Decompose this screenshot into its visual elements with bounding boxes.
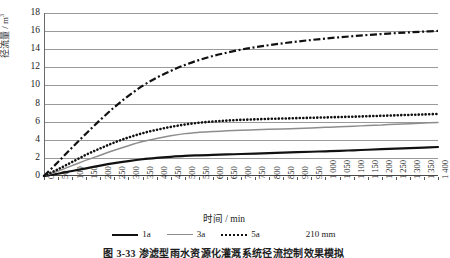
x-tick-mark bbox=[396, 177, 397, 180]
y-axis-title: 径流量 / m3 bbox=[0, 0, 11, 86]
x-axis-title: 时间 / min bbox=[0, 211, 448, 225]
x-tick-mark bbox=[199, 177, 200, 180]
x-tick-label: 1 200 bbox=[385, 160, 394, 179]
y-tick-label: 10 bbox=[22, 80, 40, 90]
x-tick-label: 500 bbox=[188, 166, 197, 179]
x-tick-mark bbox=[157, 177, 158, 180]
x-tick-label: 1 400 bbox=[441, 160, 450, 179]
legend-item-210-mm[interactable]: 210 mm bbox=[276, 229, 336, 239]
y-tick-label: 16 bbox=[22, 26, 40, 36]
x-tick-mark bbox=[311, 177, 312, 180]
x-tick-mark bbox=[241, 177, 242, 180]
x-tick-label: 350 bbox=[146, 166, 155, 179]
legend-swatch-icon bbox=[276, 230, 302, 239]
x-tick-mark bbox=[255, 177, 256, 180]
x-tick-label: 850 bbox=[287, 166, 296, 179]
x-tick-mark bbox=[171, 177, 172, 180]
x-tick-mark bbox=[72, 177, 73, 180]
x-tick-label: 100 bbox=[76, 166, 85, 179]
x-tick-label: 300 bbox=[132, 166, 141, 179]
y-tick-label: 8 bbox=[22, 99, 40, 109]
y-tick-label: 6 bbox=[22, 117, 40, 127]
y-tick-label: 14 bbox=[22, 44, 40, 54]
x-tick-label: 250 bbox=[118, 166, 127, 179]
x-tick-mark bbox=[297, 177, 298, 180]
x-tick-mark bbox=[368, 177, 369, 180]
x-tick-mark bbox=[86, 177, 87, 180]
x-tick-label: 550 bbox=[202, 166, 211, 179]
x-tick-label: 1 150 bbox=[371, 160, 380, 179]
x-tick-label: 900 bbox=[301, 166, 310, 179]
y-axis-title-exponent: 3 bbox=[0, 14, 5, 17]
plot-area bbox=[44, 13, 438, 176]
x-tick-label: 150 bbox=[90, 166, 99, 179]
x-tick-mark bbox=[424, 177, 425, 180]
x-tick-mark bbox=[269, 177, 270, 180]
x-tick-mark bbox=[100, 177, 101, 180]
x-tick-label: 600 bbox=[216, 166, 225, 179]
x-tick-mark bbox=[128, 177, 129, 180]
x-tick-mark bbox=[143, 177, 144, 180]
x-tick-mark bbox=[185, 177, 186, 180]
x-tick-label: 1 300 bbox=[413, 160, 422, 179]
x-tick-label: 700 bbox=[244, 166, 253, 179]
x-tick-label: 1 350 bbox=[427, 160, 436, 179]
x-tick-label: 800 bbox=[273, 166, 282, 179]
y-tick-label: 0 bbox=[22, 171, 40, 181]
x-tick-mark bbox=[340, 177, 341, 180]
legend-item-5a[interactable]: 5a bbox=[221, 229, 260, 239]
y-tick-label: 2 bbox=[22, 153, 40, 163]
y-tick-label: 4 bbox=[22, 135, 40, 145]
x-tick-mark bbox=[114, 177, 115, 180]
figure-caption: 图 3-33 渗滤型雨水资源化灌溉系统径流控制效果模拟 bbox=[0, 245, 448, 258]
x-tick-label: 1 100 bbox=[357, 160, 366, 179]
x-tick-label: 1 250 bbox=[399, 160, 408, 179]
y-tick-label: 18 bbox=[22, 8, 40, 18]
legend-swatch-icon bbox=[112, 230, 138, 239]
x-tick-label: 1 050 bbox=[343, 160, 352, 179]
x-tick-label: 750 bbox=[258, 166, 267, 179]
legend-item-3a[interactable]: 3a bbox=[167, 229, 206, 239]
x-tick-mark bbox=[354, 177, 355, 180]
x-tick-mark bbox=[410, 177, 411, 180]
legend-label: 3a bbox=[197, 229, 206, 239]
x-tick-mark bbox=[227, 177, 228, 180]
x-axis-tick-labels: 0501001502002503003504004505005506006507… bbox=[44, 177, 438, 213]
y-tick-label: 12 bbox=[22, 62, 40, 72]
legend-item-1a[interactable]: 1a bbox=[112, 229, 151, 239]
x-tick-mark bbox=[213, 177, 214, 180]
x-tick-label: 200 bbox=[104, 166, 113, 179]
y-axis-tick-labels: 024681012141618 bbox=[22, 13, 40, 176]
x-tick-mark bbox=[325, 177, 326, 180]
x-tick-mark bbox=[58, 177, 59, 180]
legend-label: 210 mm bbox=[306, 229, 336, 239]
legend-label: 5a bbox=[251, 229, 260, 239]
chart-legend: 1a3a5a210 mm bbox=[0, 229, 448, 239]
x-tick-mark bbox=[283, 177, 284, 180]
x-tick-label: 0 bbox=[47, 175, 56, 179]
legend-label: 1a bbox=[142, 229, 151, 239]
series-lines bbox=[44, 13, 438, 176]
x-tick-label: 400 bbox=[160, 166, 169, 179]
x-tick-label: 650 bbox=[230, 166, 239, 179]
y-axis-title-text: 径流量 / m bbox=[0, 17, 10, 58]
x-tick-mark bbox=[382, 177, 383, 180]
x-tick-mark bbox=[438, 177, 439, 180]
x-tick-label: 450 bbox=[174, 166, 183, 179]
legend-swatch-icon bbox=[167, 230, 193, 239]
legend-swatch-icon bbox=[221, 230, 247, 239]
x-tick-label: 50 bbox=[61, 171, 70, 180]
x-tick-mark bbox=[44, 177, 45, 180]
x-tick-label: 950 bbox=[315, 166, 324, 179]
x-tick-label: 1 000 bbox=[329, 160, 338, 179]
